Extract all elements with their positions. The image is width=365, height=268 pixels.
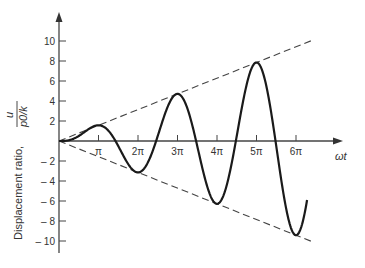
x-tick-label: 6π (290, 146, 303, 157)
y-tick-label: – 10 (36, 236, 56, 247)
y-tick-label: – 6 (41, 196, 55, 207)
y-tick-label: 6 (49, 76, 55, 87)
x-tick-label: 5π (250, 146, 263, 157)
y-axis-label-numerator: u (3, 112, 15, 118)
y-tick-label: 2 (49, 116, 55, 127)
chart-canvas: π2π3π4π5π6π108642– 2– 4– 6– 8– 10 ωt (0, 0, 365, 268)
y-tick-label: – 4 (41, 176, 55, 187)
y-tick-label: 10 (44, 36, 56, 47)
y-axis-label-denominator: p0/k (17, 106, 29, 128)
y-tick-label: 4 (49, 96, 55, 107)
y-axis-label: Displacement ratio, u p0/k (2, 90, 34, 240)
y-tick-label: – 8 (41, 216, 55, 227)
axes (56, 12, 344, 253)
y-axis-arrow-icon (56, 12, 63, 22)
x-axis-arrow-icon (333, 138, 343, 145)
x-tick-label: 4π (211, 146, 224, 157)
y-tick-label: – 2 (41, 156, 55, 167)
y-tick-label: 8 (49, 56, 55, 67)
x-tick-label: 2π (132, 146, 145, 157)
y-axis-label-text: Displacement ratio, (12, 146, 24, 240)
x-axis-label: ωt (335, 150, 348, 162)
x-tick-label: 3π (171, 146, 184, 157)
